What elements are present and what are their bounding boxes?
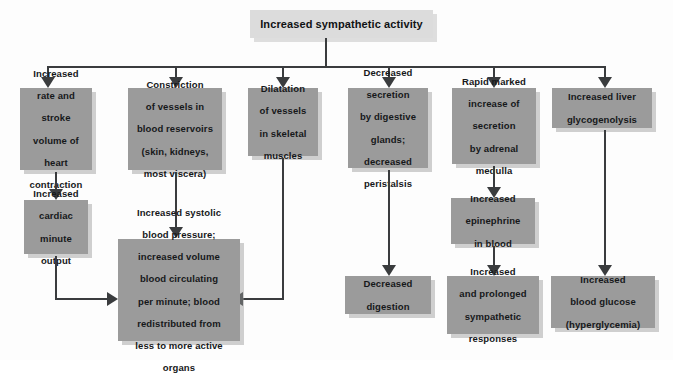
node-cardiac-minute-output: Increased cardiac minute output [24,200,88,254]
node-epinephrine-in-blood: Increased epinephrine in blood [451,198,535,244]
arrow-into-blood-pressure-left [107,292,118,306]
node-label: Constriction of vessels in blood reservo… [137,79,213,179]
connector-cardiac-right [55,298,107,300]
node-heart-contraction: Increased rate and stroke volume of hear… [20,88,92,170]
node-constriction-vessels: Constriction of vessels in blood reservo… [128,88,222,170]
connector-adrenal-down [493,166,495,188]
node-label: Increased liver glycogenolysis [567,91,637,124]
node-sympathetic-responses: Increased and prolonged sympathetic resp… [447,276,539,334]
node-label: Increased cardiac minute output [33,188,78,266]
connector-title-stem [325,38,327,66]
connector-cardiac-down [55,256,57,300]
node-label: Rapid marked increase of secretion by ad… [462,76,526,176]
node-decreased-digestion: Decreased digestion [345,276,431,314]
node-label: Increased and prolonged sympathetic resp… [459,266,526,344]
node-liver-glycogenolysis: Increased liver glycogenolysis [552,88,652,128]
node-dilatation-vessels: Dilatation of vessels in skeletal muscle… [248,88,318,156]
arrow-to-liver [598,77,612,88]
node-label: Increased epinephrine in blood [466,193,521,249]
node-label: Increased sympathetic activity [260,18,423,31]
node-label: Decreased digestion [364,278,413,311]
connector-distributor-bar [47,66,605,68]
arrow-to-decreased-digestion [382,265,396,276]
connector-dilatation-left [243,298,284,300]
connector-epinephrine-down [493,246,495,266]
node-adrenal-medulla: Rapid marked increase of secretion by ad… [452,88,536,164]
node-decreased-secretion: Decreased secretion by digestive glands;… [348,88,428,168]
node-increased-blood-pressure: Increased systolic blood pressure; incre… [118,239,240,341]
connector-dilatation-down [282,158,284,298]
connector-liver-down [604,130,606,266]
connector-digestive-down [388,170,390,266]
node-label: Dilatation of vessels in skeletal muscle… [259,83,306,161]
node-increased-sympathetic-activity: Increased sympathetic activity [250,10,433,38]
node-label: Increased systolic blood pressure; incre… [135,207,222,373]
node-label: Increased blood glucose (hyperglycemia) [566,274,640,330]
node-blood-glucose: Increased blood glucose (hyperglycemia) [551,276,655,328]
